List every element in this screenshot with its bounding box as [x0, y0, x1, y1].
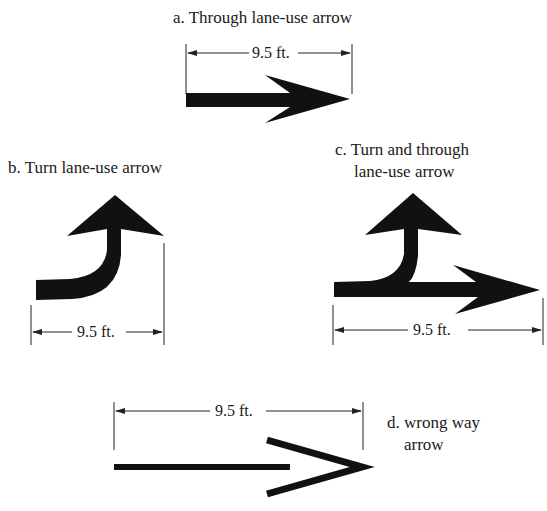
turn-arrow-icon	[36, 195, 164, 300]
panel-a-label: a. Through lane-use arrow	[173, 8, 352, 28]
panel-a-dimension: 9.5 ft.	[249, 45, 293, 61]
through-arrow-icon	[186, 75, 350, 123]
panel-c-label-line2: lane-use arrow	[354, 162, 455, 182]
panel-d-label-line2: arrow	[404, 435, 444, 455]
panel-b-dimension: 9.5 ft.	[74, 324, 118, 340]
panel-d-label-line1: d. wrong way	[387, 413, 480, 433]
panel-d-dimension: 9.5 ft.	[212, 403, 256, 419]
panel-b-label: b. Turn lane-use arrow	[8, 158, 162, 178]
arrow-diagram	[0, 0, 547, 511]
panel-c-dimension: 9.5 ft.	[410, 322, 454, 338]
wrong-way-shaft	[114, 464, 290, 470]
panel-c-label-line1: c. Turn and through	[335, 140, 469, 160]
turn-through-arrow-icon	[334, 193, 540, 314]
